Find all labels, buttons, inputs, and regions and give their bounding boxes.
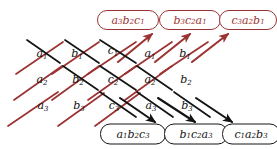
positive-product-1: a3b2c1 [97, 10, 159, 30]
positive-diagonal-15 [192, 34, 228, 62]
matrix-entry-a2-r2-c4: a2 [144, 74, 155, 85]
matrix-entry-a1-r1-c1: a1 [36, 48, 47, 59]
matrix-entry-b3-r3-c5: b3 [181, 100, 193, 111]
matrix-entry-b2-r2-c2: b2 [72, 74, 84, 85]
negative-product-1: a1b2c3 [100, 124, 166, 145]
matrix-entry-b1-r1-c2: b1 [71, 48, 83, 59]
positive-product-2: b3c2a1 [159, 10, 221, 30]
negative-product-2: b1c2a3 [164, 124, 228, 145]
matrix-entry-a2-r2-c1: a2 [36, 74, 47, 85]
matrix-entry-c3-r3-c3: c3 [109, 100, 120, 111]
positive-diagonal-1 [8, 92, 58, 126]
matrix-entry-c2-r2-c3: c2 [108, 74, 119, 85]
matrix-entry-b2-r2-c5: b2 [180, 74, 192, 85]
positive-product-3: c3a2b1 [219, 10, 277, 30]
matrix-entry-c1-r1-c3: c1 [108, 45, 119, 56]
sarrus-rule-diagram: a1b1c1a1b1a2b2c2a2b2a3b3c3a3b3 a3b2c1b3c… [0, 0, 277, 149]
matrix-entry-b1-r1-c5: b1 [179, 48, 191, 59]
matrix-entry-a3-r3-c4: a3 [145, 100, 156, 111]
matrix-entry-a3-r3-c1: a3 [37, 100, 48, 111]
negative-product-3: c1a2b3 [222, 124, 277, 145]
matrix-entry-a1-r1-c4: a1 [144, 48, 155, 59]
matrix-entry-b3-r3-c2: b3 [73, 100, 85, 111]
